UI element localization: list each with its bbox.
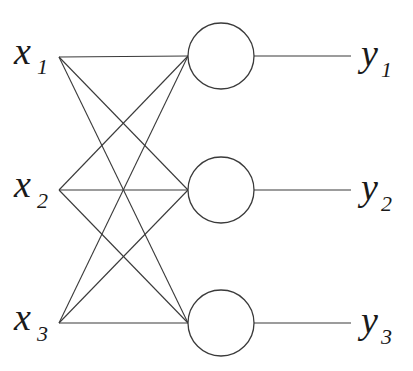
- svg-text:2: 2: [37, 188, 48, 213]
- connection-edges: [59, 56, 188, 323]
- svg-text:x: x: [13, 296, 31, 338]
- neuron-node-1: [188, 23, 254, 89]
- svg-text:2: 2: [381, 191, 392, 216]
- input-label-x2: x 2: [13, 163, 48, 213]
- svg-text:1: 1: [37, 54, 48, 79]
- svg-text:y: y: [357, 32, 378, 74]
- svg-text:y: y: [357, 299, 378, 341]
- input-label-x1: x 1: [13, 30, 48, 79]
- svg-text:3: 3: [36, 321, 48, 346]
- svg-text:3: 3: [380, 324, 392, 349]
- neuron-nodes: [188, 23, 254, 356]
- output-label-y2: y 2: [357, 166, 392, 216]
- svg-text:1: 1: [381, 57, 392, 82]
- output-label-y1: y 1: [357, 32, 392, 82]
- svg-text:x: x: [13, 30, 31, 72]
- output-label-y3: y 3: [357, 299, 392, 349]
- input-label-x3: x 3: [13, 296, 48, 346]
- edge-x1-to-node1: [59, 56, 188, 57]
- svg-text:y: y: [357, 166, 378, 208]
- svg-text:x: x: [13, 163, 31, 205]
- neuron-node-2: [188, 157, 254, 223]
- neuron-node-3: [188, 290, 254, 356]
- output-lines: [254, 56, 351, 323]
- neural-network-diagram: x 1 x 2 x 3 y 1 y 2 y 3: [0, 0, 413, 371]
